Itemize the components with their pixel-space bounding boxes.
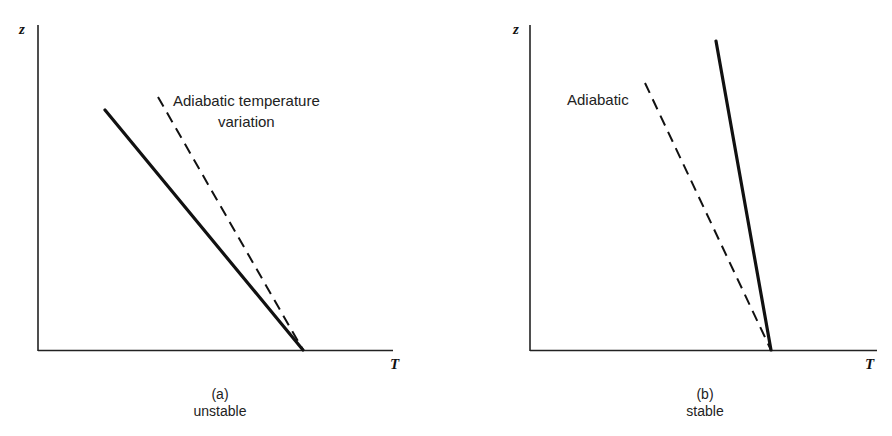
panel-a-caption-letter: (a) (160, 386, 280, 403)
panel-b-adiabatic-annotation: Adiabatic (567, 92, 629, 107)
panel-b-actual-profile-line (716, 41, 771, 350)
panel-a-adiabatic-annotation-line1: Adiabatic temperature (173, 93, 320, 108)
panel-b-t-axis-label: T (865, 357, 874, 372)
panel-b-caption-letter: (b) (645, 386, 765, 403)
panel-b-adiabatic-dashed-line (645, 83, 771, 350)
panel-a-adiabatic-dashed-line (158, 97, 303, 350)
panel-a-actual-profile-line (105, 110, 303, 350)
panel-a-caption-text: unstable (160, 403, 280, 420)
panel-a-z-axis-label: z (19, 22, 25, 37)
panel-b-axes (530, 25, 877, 351)
panel-a-t-axis-label: T (390, 357, 399, 372)
panel-a-adiabatic-annotation-line2: variation (218, 114, 275, 129)
diagram-canvas (0, 0, 892, 436)
panel-b-caption-text: stable (645, 403, 765, 420)
panel-b-z-axis-label: z (513, 22, 519, 37)
panel-a-axes (38, 25, 393, 351)
